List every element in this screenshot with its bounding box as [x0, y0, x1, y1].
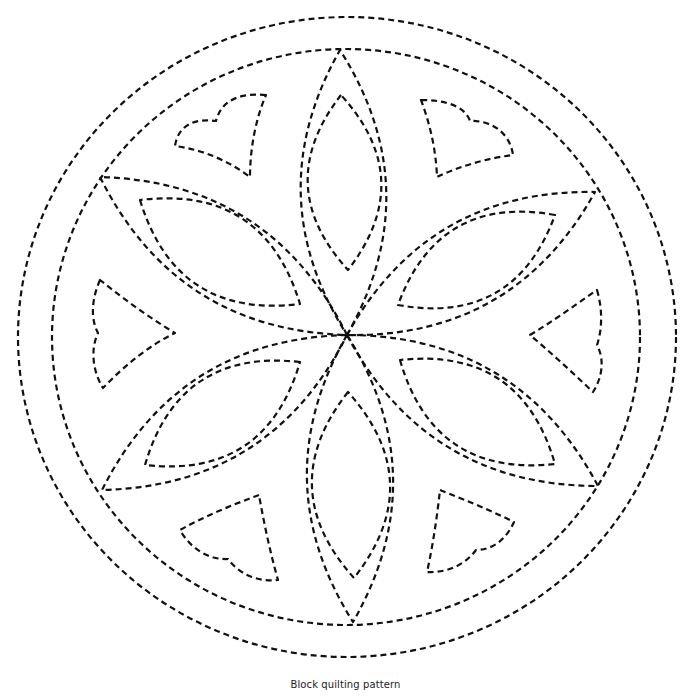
lens-upper-left — [140, 198, 300, 305]
quilting-pattern-diagram — [0, 0, 691, 670]
petal-top — [301, 50, 387, 335]
heart-upper-left — [175, 95, 266, 177]
petal-bottom — [307, 335, 393, 622]
petal-lower-left — [102, 335, 347, 490]
lens-lower-left — [145, 361, 300, 467]
heart-left — [93, 280, 175, 388]
heart-right — [530, 290, 602, 392]
lens-bottom — [312, 392, 390, 578]
figure-caption: Block quilting pattern — [0, 679, 691, 690]
petal-group — [100, 50, 598, 622]
heart-lower-right — [427, 490, 514, 572]
petal-upper-right — [347, 192, 595, 335]
heart-upper-right — [421, 100, 513, 177]
lens-upper-right — [398, 212, 555, 309]
lens-top — [308, 95, 382, 270]
lens-lower-right — [400, 359, 555, 466]
heart-lower-left — [180, 495, 278, 580]
petal-lower-right — [347, 335, 598, 486]
